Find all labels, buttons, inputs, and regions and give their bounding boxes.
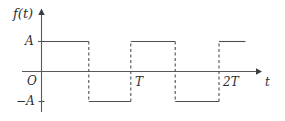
- y-tick-label-amplitude-negative: −A: [16, 95, 35, 107]
- y-axis-label: f(t): [13, 7, 33, 20]
- y-axis-arrow-icon: [38, 9, 44, 16]
- x-axis-arrow-icon: [256, 68, 262, 75]
- x-axis-label: t: [265, 76, 270, 88]
- x-tick-label-two-periods: 2T: [223, 76, 239, 88]
- y-tick-label-amplitude-positive: A: [25, 35, 34, 47]
- plot-canvas: [0, 0, 285, 121]
- square-wave-figure: f(t) A O −A T 2T t: [0, 0, 285, 121]
- x-tick-label-period: T: [135, 76, 143, 88]
- origin-label: O: [27, 75, 37, 87]
